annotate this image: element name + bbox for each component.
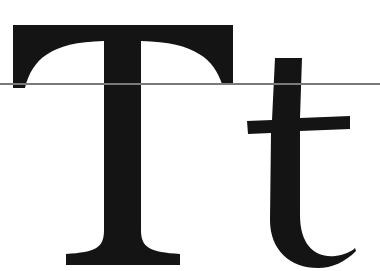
reference-guide-line (0, 83, 380, 85)
lowercase-t-glyph (247, 58, 356, 268)
uppercase-t-glyph (13, 25, 233, 265)
type-specimen: Tt (0, 0, 380, 271)
glyph-drawing (0, 0, 380, 271)
